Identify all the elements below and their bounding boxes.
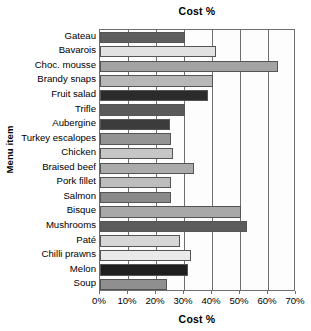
bar-row <box>100 190 296 205</box>
chart-title: Cost % <box>99 5 295 17</box>
bar[interactable] <box>100 177 171 188</box>
bar[interactable] <box>100 119 170 130</box>
bar[interactable] <box>100 221 247 232</box>
bar-row <box>100 88 296 103</box>
bar-row <box>100 146 296 161</box>
category-label: Gateau <box>4 31 96 41</box>
x-axis-tickmark <box>127 291 128 294</box>
bar-row <box>100 74 296 89</box>
bar-row <box>100 205 296 220</box>
x-axis-title: Cost % <box>99 313 295 325</box>
bar[interactable] <box>100 61 278 72</box>
bar[interactable] <box>100 104 185 115</box>
bar[interactable] <box>100 279 167 290</box>
category-label: Aubergine <box>4 118 96 128</box>
category-label: Choc. mousse <box>4 60 96 70</box>
bar-row <box>100 277 296 292</box>
x-axis-tickmark <box>267 291 268 294</box>
bar[interactable] <box>100 163 194 174</box>
x-axis-tickmark <box>239 291 240 294</box>
bar-row <box>100 45 296 60</box>
bar-row <box>100 132 296 147</box>
category-label: Chilli prawns <box>4 249 96 259</box>
x-axis-tick-label: 70% <box>275 295 311 306</box>
bar-chart: Cost % Menu item GateauBavaroisChoc. mou… <box>0 0 311 331</box>
bar-row <box>100 117 296 132</box>
category-label: Brandy snaps <box>4 74 96 84</box>
category-label: Bavarois <box>4 45 96 55</box>
bar-row <box>100 234 296 249</box>
bar[interactable] <box>100 133 171 144</box>
x-axis-tickmark <box>183 291 184 294</box>
category-label: Turkey escalopes <box>4 133 96 143</box>
bar-row <box>100 176 296 191</box>
x-axis-tickmark <box>99 291 100 294</box>
category-label: Paté <box>4 235 96 245</box>
bar[interactable] <box>100 264 188 275</box>
category-label: Soup <box>4 278 96 288</box>
category-label: Braised beef <box>4 162 96 172</box>
bar[interactable] <box>100 46 216 57</box>
bar[interactable] <box>100 235 180 246</box>
bar-row <box>100 248 296 263</box>
x-axis-tickmark <box>295 291 296 294</box>
x-axis-tickmark <box>211 291 212 294</box>
category-label: Fruit salad <box>4 89 96 99</box>
category-label: Melon <box>4 264 96 274</box>
category-label: Pork fillet <box>4 176 96 186</box>
bar[interactable] <box>100 250 191 261</box>
category-label: Chicken <box>4 147 96 157</box>
bar[interactable] <box>100 32 185 43</box>
category-label: Trifle <box>4 104 96 114</box>
plot-area <box>99 29 295 291</box>
bar-row <box>100 263 296 278</box>
bar[interactable] <box>100 90 208 101</box>
bar[interactable] <box>100 206 241 217</box>
bar-row <box>100 59 296 74</box>
category-label: Bisque <box>4 205 96 215</box>
bar-row <box>100 161 296 176</box>
x-axis-tickmark <box>155 291 156 294</box>
bar[interactable] <box>100 75 213 86</box>
bar-row <box>100 30 296 45</box>
bar-row <box>100 103 296 118</box>
category-label: Salmon <box>4 191 96 201</box>
bar[interactable] <box>100 148 173 159</box>
bar[interactable] <box>100 192 171 203</box>
category-label: Mushrooms <box>4 220 96 230</box>
bar-row <box>100 219 296 234</box>
